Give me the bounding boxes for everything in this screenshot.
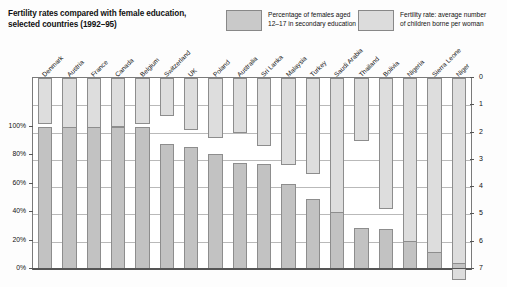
bar-group (33, 78, 57, 269)
category-label: Canada (114, 57, 135, 78)
bar-fertility (403, 78, 418, 258)
y-axis-tick-right (470, 159, 474, 160)
category-label: Bolivia (381, 59, 400, 78)
bar-group (203, 78, 227, 269)
category-label: Niger (454, 62, 470, 78)
category-label: Australia (235, 55, 258, 78)
bar-fertility (257, 78, 272, 146)
y-axis-tick-label-left: 60% (0, 179, 26, 186)
y-axis-tick-right (470, 104, 474, 105)
legend-item-fertility: Fertility rate: average number of childr… (358, 10, 486, 31)
y-axis-tick-left (29, 154, 33, 155)
y-axis-tick-label-right: 0 (479, 73, 483, 80)
bar-group (325, 78, 349, 269)
y-axis-tick-right (470, 132, 474, 133)
y-axis-tick-label-right: 7 (479, 264, 483, 271)
category-label: Nigeria (406, 58, 426, 78)
bar-education (281, 184, 296, 269)
bar-education (184, 147, 199, 269)
bar-group (447, 78, 471, 269)
y-axis-tick-left (29, 211, 33, 212)
y-axis-tick-label-right: 4 (479, 182, 483, 189)
bar-fertility (87, 78, 102, 130)
legend-swatch-education (226, 10, 262, 31)
axis-baseline (32, 268, 471, 269)
bar-group (57, 78, 81, 269)
y-axis-tick-label-right: 6 (479, 237, 483, 244)
legend-label-fertility: Fertility rate: average number of childr… (400, 10, 486, 28)
y-axis-tick-label-right: 2 (479, 128, 483, 135)
bar-group (252, 78, 276, 269)
bar-fertility (306, 78, 321, 174)
bar-fertility (354, 78, 369, 141)
bar-education (62, 127, 77, 269)
category-label: Austria (65, 59, 84, 78)
chart-figure: Fertility rates compared with female edu… (0, 0, 507, 287)
page-title: Fertility rates compared with female edu… (8, 8, 213, 30)
bar-education (111, 127, 126, 269)
bar-education (403, 241, 418, 269)
y-axis-tick-label-left: 0% (0, 264, 26, 271)
bar-education (257, 164, 272, 269)
bar-group (276, 78, 300, 269)
category-label: France (89, 59, 108, 78)
category-label: Malaysia (284, 55, 307, 78)
category-label: Sri Lanka (260, 53, 285, 78)
bar-fertility (111, 78, 126, 127)
bar-education (87, 127, 102, 269)
legend-label-education: Percentage of females aged 12–17 in seco… (268, 10, 356, 28)
bar-fertility (379, 78, 394, 209)
bar-education (208, 154, 223, 269)
bar-group (82, 78, 106, 269)
bar-fertility (135, 78, 150, 124)
bar-fertility (281, 78, 296, 165)
bar-education (135, 127, 150, 269)
bar-group (179, 78, 203, 269)
y-axis-tick-left (29, 268, 33, 269)
bar-education (38, 127, 53, 269)
y-axis-tick-left (29, 183, 33, 184)
y-axis-tick-label-left: 20% (0, 236, 26, 243)
bar-education (233, 163, 248, 270)
bar-fertility (427, 78, 442, 255)
y-axis-tick-label-left: 80% (0, 150, 26, 157)
bar-group (130, 78, 154, 269)
plot-area (32, 77, 472, 270)
bar-education (427, 252, 442, 269)
bar-education (379, 229, 394, 269)
bar-fertility (184, 78, 199, 130)
bar-fertility (38, 78, 53, 124)
legend-swatch-fertility (358, 10, 394, 31)
category-label: Denmark (41, 54, 65, 78)
category-label: Poland (211, 58, 230, 77)
bar-group (155, 78, 179, 269)
bar-group (301, 78, 325, 269)
y-axis-tick-label-right: 1 (479, 100, 483, 107)
bar-group (106, 78, 130, 269)
y-axis-tick-label-left: 40% (0, 207, 26, 214)
category-label: Thailand (357, 55, 380, 78)
bar-education (330, 212, 345, 269)
y-axis-tick-label-left: 100% (0, 122, 26, 129)
y-axis-tick-label-right: 5 (479, 209, 483, 216)
legend-item-education: Percentage of females aged 12–17 in seco… (226, 10, 356, 31)
category-label: Belgium (138, 56, 160, 78)
bar-fertility (160, 78, 175, 116)
bar-education (354, 228, 369, 269)
y-axis-tick-left (29, 240, 33, 241)
bar-fertility (452, 78, 467, 280)
bar-group (398, 78, 422, 269)
y-axis-tick-left (29, 126, 33, 127)
category-label: Turkey (308, 59, 327, 78)
bar-group (374, 78, 398, 269)
y-axis-tick-right (470, 77, 474, 78)
bar-fertility (208, 78, 223, 138)
y-axis-tick-right (470, 213, 474, 214)
bar-group (228, 78, 252, 269)
bar-group (422, 78, 446, 269)
y-axis-tick-right (470, 186, 474, 187)
y-axis-tick-right (470, 268, 474, 269)
y-axis-tick-right (470, 241, 474, 242)
bar-fertility (233, 78, 248, 133)
bar-education (306, 199, 321, 269)
